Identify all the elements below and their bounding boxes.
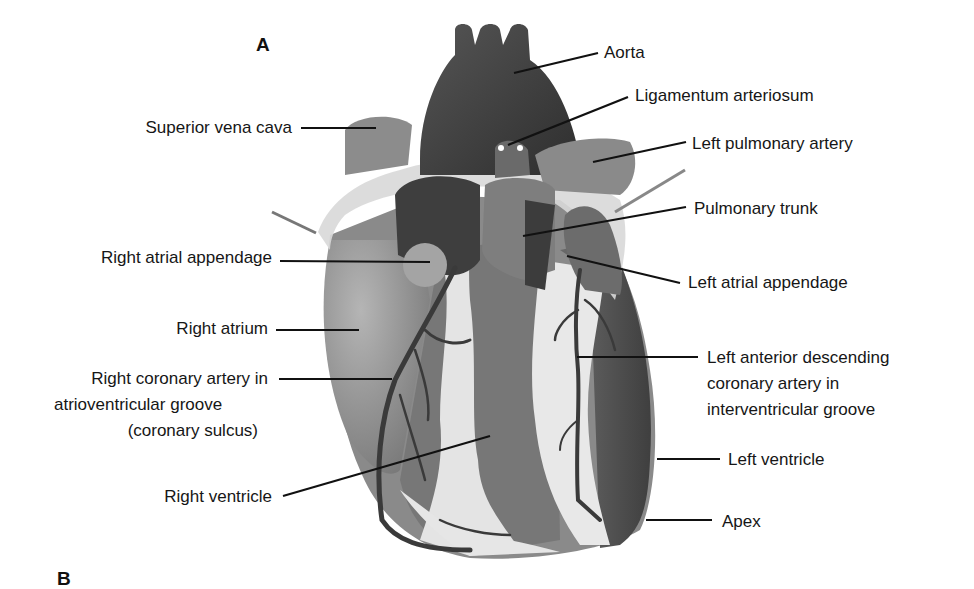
label-right-ventricle: Right ventricle: [164, 484, 272, 510]
panel-label-a: A: [256, 34, 270, 56]
label-pulmonary-trunk: Pulmonary trunk: [694, 196, 818, 222]
label-ligamentum-arteriosum: Ligamentum arteriosum: [635, 83, 814, 109]
superior-vena-cava-shape: [345, 117, 412, 175]
label-rca-line3: (coronary sulcus): [128, 418, 258, 444]
panel-label-b: B: [57, 568, 71, 589]
label-lad-line3: interventricular groove: [707, 397, 875, 423]
label-rca-line2: atrioventricular groove: [54, 392, 222, 418]
label-lad-line2: coronary artery in: [707, 371, 839, 397]
label-apex: Apex: [722, 509, 761, 535]
label-lad-line1: Left anterior descending: [707, 345, 889, 371]
label-superior-vena-cava: Superior vena cava: [146, 115, 292, 141]
right-atrial-appendage-shape: [403, 243, 447, 287]
label-right-atrium: Right atrium: [176, 316, 268, 342]
label-aorta: Aorta: [604, 40, 645, 66]
label-left-pulmonary-artery: Left pulmonary artery: [692, 131, 853, 157]
label-left-ventricle: Left ventricle: [728, 447, 824, 473]
label-rca-line1: Right coronary artery in: [91, 366, 268, 392]
label-left-atrial-appendage: Left atrial appendage: [688, 270, 848, 296]
label-right-atrial-appendage: Right atrial appendage: [101, 245, 272, 271]
